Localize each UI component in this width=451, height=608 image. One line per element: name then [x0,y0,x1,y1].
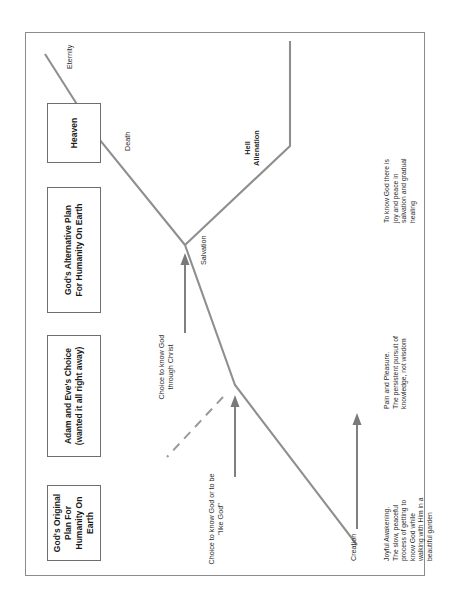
label-eternity: Eternity [65,45,74,69]
label-hell-alienation: Hell Alienation [243,119,261,177]
label-choice-know-god-christ: Choice to know God through Christ [157,327,175,407]
note-joyful-awakening: Joyful Awakening. The slow, peaceful pro… [383,429,435,561]
choice-arrow [231,395,240,477]
page-frame: God's Original Plan For Humanity On Eart… [25,32,425,576]
label-salvation: Salvation [199,235,208,265]
salvation-arrow [181,253,190,333]
hell-path-line [185,41,290,245]
diagram-stage: God's Original Plan For Humanity On Eart… [27,33,425,575]
title-box-adam-and-eves-choice: Adam and Eve's Choice (wanted it all rig… [47,335,101,457]
creation-arrow [353,413,362,529]
note-to-know-god: To know God there is joy and peace in sa… [383,103,417,223]
title-box-gods-alternative-plan: God's Alternative Plan For Humanity On E… [47,187,101,313]
note-pain-and-pleasure: Pain and Pleasure. The persistent pursui… [383,269,409,409]
label-creation: Creation [349,534,358,561]
label-death: Death [123,132,132,151]
title-box-gods-original-plan: God's Original Plan For Humanity On Eart… [47,485,101,561]
dashed-divergence-line [167,397,223,457]
title-box-heaven: Heaven [47,103,101,163]
label-choice-know-god-like-god: Choice to know God or to be "like God" [207,473,225,565]
diagram-page: God's Original Plan For Humanity On Eart… [0,0,451,608]
